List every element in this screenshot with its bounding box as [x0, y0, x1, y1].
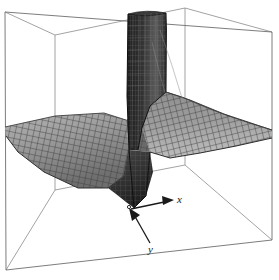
plot-canvas: x y — [0, 0, 279, 280]
box-edge-bottom-left-connector — [6, 190, 55, 270]
surface-plot-figure: x y — [0, 0, 279, 280]
y-axis-label: y — [147, 243, 153, 255]
x-axis-label: x — [176, 193, 182, 205]
surface-right-wing — [142, 92, 272, 158]
surface-left-wing — [5, 113, 129, 188]
box-edge-front-left-vertical — [5, 12, 6, 270]
box-edge-bottom-right-connector — [185, 165, 272, 240]
origin-marker — [127, 205, 130, 208]
box-edge-front-bottom — [6, 240, 272, 270]
y-axis-arrow — [129, 208, 150, 243]
